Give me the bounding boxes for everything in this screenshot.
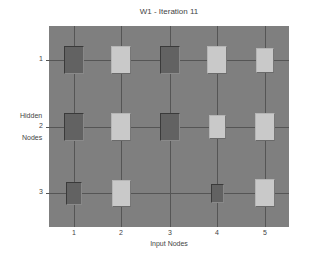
grid-line-horizontal — [49, 193, 289, 194]
y-tick-label: 2 — [33, 122, 43, 129]
weight-box — [255, 113, 275, 141]
weight-box — [111, 113, 131, 141]
hinton-plot-area — [49, 26, 289, 227]
x-axis-label: Input Nodes — [49, 240, 289, 247]
weight-box — [64, 46, 84, 74]
weight-box — [66, 182, 82, 205]
chart-title: W1 - Iteration 11 — [49, 7, 289, 16]
x-tick-label: 2 — [116, 229, 126, 236]
y-tick-mark — [46, 60, 49, 61]
weight-box — [256, 48, 274, 73]
weight-box — [160, 113, 180, 141]
y-tick-mark — [46, 127, 49, 128]
x-tick-label: 4 — [212, 229, 222, 236]
x-tick-label: 5 — [260, 229, 270, 236]
weight-box — [160, 46, 180, 74]
y-tick-label: 3 — [33, 188, 43, 195]
weight-box — [112, 180, 131, 207]
weight-box — [255, 179, 275, 207]
weight-box — [211, 184, 224, 203]
x-tick-label: 1 — [69, 229, 79, 236]
weight-box — [207, 46, 227, 74]
y-axis-label-line2: Nodes — [22, 134, 42, 141]
weight-box — [209, 115, 226, 139]
weight-box — [111, 46, 131, 74]
y-tick-label: 1 — [33, 55, 43, 62]
x-tick-label: 3 — [165, 229, 175, 236]
weight-box — [64, 113, 84, 141]
y-axis-label-line1: Hidden — [20, 112, 42, 119]
y-tick-mark — [46, 193, 49, 194]
